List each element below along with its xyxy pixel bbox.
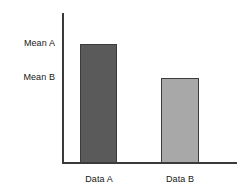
y-tick-label-mean-a: Mean A [24, 38, 55, 48]
x-tick-label-data-a: Data A [76, 174, 122, 184]
bar-data-a [80, 44, 117, 163]
y-tick-label-mean-b: Mean B [23, 72, 55, 82]
bar-chart: Mean A Mean B Data A Data B [0, 0, 245, 196]
y-axis-line [62, 13, 64, 164]
bar-data-b [161, 78, 199, 163]
x-tick-label-data-b: Data B [157, 174, 203, 184]
